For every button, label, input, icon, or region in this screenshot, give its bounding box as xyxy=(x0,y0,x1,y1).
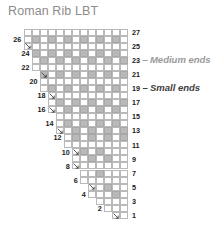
draft-cell xyxy=(88,99,96,106)
draft-cell xyxy=(80,99,88,106)
draft-cell xyxy=(120,43,128,50)
draft-cell xyxy=(56,120,64,127)
draft-cell xyxy=(120,191,128,198)
draft-cell xyxy=(112,64,120,71)
row-label-left: 22 xyxy=(17,64,29,71)
draft-cell xyxy=(104,106,112,113)
draft-cell xyxy=(72,99,80,106)
draft-cell xyxy=(48,50,56,57)
draft-cell xyxy=(112,43,120,50)
draft-cell xyxy=(104,148,112,155)
draft-cell xyxy=(80,113,88,120)
row-label-right: 7 xyxy=(132,170,136,177)
draft-cell xyxy=(104,127,112,134)
draft-cell xyxy=(104,92,112,99)
draft-cell xyxy=(104,141,112,148)
draft-cell xyxy=(56,43,64,50)
draft-cell xyxy=(32,43,40,50)
row-label-right: 25 xyxy=(132,43,140,50)
draft-cell xyxy=(40,50,48,57)
draft-cell xyxy=(40,29,48,36)
draft-cell xyxy=(88,127,96,134)
draft-cell xyxy=(80,148,88,155)
annotation-medium-ends: – Medium ends xyxy=(143,55,211,65)
draft-cell xyxy=(80,64,88,71)
step-direction-icon xyxy=(25,43,31,49)
draft-cell xyxy=(96,127,104,134)
draft-cell xyxy=(96,29,104,36)
draft-cell xyxy=(96,141,104,148)
draft-cell xyxy=(80,78,88,85)
draft-cell xyxy=(96,43,104,50)
draft-cell xyxy=(120,57,128,64)
draft-cell xyxy=(120,113,128,120)
draft-cell xyxy=(72,78,80,85)
draft-cell xyxy=(64,127,72,134)
row-label-left: 4 xyxy=(74,191,86,198)
draft-cell xyxy=(120,162,128,169)
row-label-right: 5 xyxy=(132,184,136,191)
draft-cell xyxy=(104,50,112,57)
draft-cell xyxy=(72,50,80,57)
draft-cell xyxy=(104,99,112,106)
draft-cell xyxy=(96,177,104,184)
row-label-left: 12 xyxy=(50,134,62,141)
step-direction-icon xyxy=(57,128,63,134)
draft-cell xyxy=(88,141,96,148)
draft-cell xyxy=(104,191,112,198)
draft-cell xyxy=(120,127,128,134)
draft-cell xyxy=(72,64,80,71)
draft-cell xyxy=(120,85,128,92)
draft-cell xyxy=(112,120,120,127)
draft-cell xyxy=(40,64,48,71)
draft-cell xyxy=(80,92,88,99)
draft-cell xyxy=(96,148,104,155)
draft-cell xyxy=(64,99,72,106)
draft-cell xyxy=(88,177,96,184)
draft-cell xyxy=(120,50,128,57)
draft-cell xyxy=(104,64,112,71)
draft-cell xyxy=(104,29,112,36)
draft-cell xyxy=(120,120,128,127)
draft-cell xyxy=(120,78,128,85)
row-label-right: 15 xyxy=(132,113,140,120)
draft-cell xyxy=(72,36,80,43)
draft-cell xyxy=(104,85,112,92)
draft-cell xyxy=(96,85,104,92)
draft-cell xyxy=(56,113,64,120)
draft-cell xyxy=(56,57,64,64)
draft-cell xyxy=(48,36,56,43)
draft-cell xyxy=(40,36,48,43)
draft-cell xyxy=(120,184,128,191)
step-direction-icon xyxy=(89,184,95,190)
draft-cell xyxy=(48,57,56,64)
draft-cell xyxy=(72,113,80,120)
step-direction-icon xyxy=(73,149,79,155)
draft-cell xyxy=(88,120,96,127)
draft-cell xyxy=(104,134,112,141)
draft-cell xyxy=(120,205,128,212)
draft-cell xyxy=(96,64,104,71)
row-label-left: 14 xyxy=(42,120,54,127)
step-direction-icon xyxy=(49,93,55,99)
draft-cell xyxy=(112,99,120,106)
draft-cell xyxy=(88,162,96,169)
draft-cell xyxy=(120,155,128,162)
draft-cell xyxy=(112,191,120,198)
draft-cell xyxy=(80,71,88,78)
draft-cell xyxy=(56,71,64,78)
draft-cell xyxy=(72,134,80,141)
draft-cell xyxy=(56,29,64,36)
draft-cell xyxy=(96,162,104,169)
draft-cell xyxy=(80,85,88,92)
row-label-right: 27 xyxy=(132,29,140,36)
draft-cell xyxy=(112,127,120,134)
draft-cell xyxy=(80,177,88,184)
draft-cell xyxy=(64,106,72,113)
draft-cell xyxy=(88,134,96,141)
step-direction-icon xyxy=(41,72,47,78)
draft-cell xyxy=(120,148,128,155)
draft-cell xyxy=(56,106,64,113)
row-label-right: 11 xyxy=(132,142,140,149)
draft-cell xyxy=(88,170,96,177)
